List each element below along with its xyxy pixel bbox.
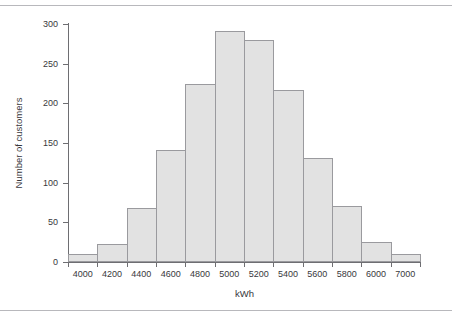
histogram-bar xyxy=(303,158,333,262)
x-tick-9 xyxy=(332,262,333,267)
x-tick-8 xyxy=(303,262,304,267)
histogram-bar xyxy=(332,206,362,262)
histogram-bar xyxy=(185,84,215,262)
histogram-bar xyxy=(127,208,157,262)
x-tick-11 xyxy=(391,262,392,267)
x-tick-4 xyxy=(185,262,186,267)
histogram-bar xyxy=(361,242,391,262)
y-axis-title: Number of customers xyxy=(13,98,24,189)
histogram-bar xyxy=(391,254,421,262)
plot-area xyxy=(68,24,420,262)
y-tick-label-300: 300 xyxy=(24,20,58,29)
x-tick-0 xyxy=(68,262,69,267)
x-tick-10 xyxy=(361,262,362,267)
x-tick-12 xyxy=(420,262,421,267)
x-tick-5 xyxy=(215,262,216,267)
y-tick-label-100: 100 xyxy=(24,179,58,188)
histogram-bar xyxy=(215,31,245,262)
x-tick-2 xyxy=(127,262,128,267)
histogram-bar xyxy=(244,40,274,262)
top-divider-rule xyxy=(0,5,452,6)
y-tick-label-0: 0 xyxy=(24,258,58,267)
x-tick-1 xyxy=(97,262,98,267)
x-tick-3 xyxy=(156,262,157,267)
histogram-bar xyxy=(68,254,98,262)
bottom-divider-rule xyxy=(0,310,452,311)
x-tick-7 xyxy=(273,262,274,267)
y-tick-label-150: 150 xyxy=(24,139,58,148)
histogram-bar xyxy=(273,90,303,262)
y-tick-label-200: 200 xyxy=(24,99,58,108)
y-tick-label-250: 250 xyxy=(24,60,58,69)
histogram-bar xyxy=(97,244,127,262)
x-tick-6 xyxy=(244,262,245,267)
x-axis-title: kWh xyxy=(68,288,421,299)
histogram-bar xyxy=(156,150,186,262)
y-tick-label-50: 50 xyxy=(24,218,58,227)
x-tick-label-7000: 7000 xyxy=(385,270,425,279)
histogram-figure: 050100150200250300 400042004400460048005… xyxy=(0,0,452,316)
